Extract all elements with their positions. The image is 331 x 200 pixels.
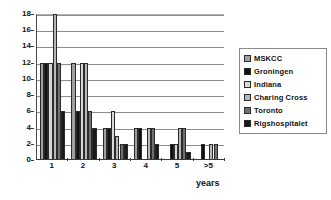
x-tick-label: 4 [143, 162, 147, 170]
bar-group [162, 15, 193, 160]
legend-swatch-icon [244, 55, 251, 62]
bar-group [194, 15, 225, 160]
bar-group [131, 15, 162, 160]
bar-chart-figure: 024681012141618 12345>5 years MSKCCGroni… [0, 0, 331, 200]
x-tickmark [161, 158, 162, 161]
y-tickmark [31, 14, 34, 15]
legend-label: Charing Cross [254, 93, 308, 102]
bar [155, 144, 159, 160]
y-tickmark [31, 46, 34, 47]
bar [214, 144, 218, 160]
x-tick-label: 3 [112, 162, 116, 170]
legend-label: Toronto [254, 106, 283, 115]
x-tick-label: 1 [49, 162, 53, 170]
bar-group [100, 15, 131, 160]
x-tickmark [193, 158, 194, 161]
plot-wrapper [36, 14, 224, 160]
x-tick-label: 2 [81, 162, 85, 170]
y-tickmark [31, 144, 34, 145]
x-tick-label: 5 [175, 162, 179, 170]
y-tick-label: 10 [22, 75, 31, 83]
y-tick-label: 12 [22, 59, 31, 67]
legend-item[interactable]: Toronto [244, 104, 323, 117]
legend-item[interactable]: Charing Cross [244, 91, 323, 104]
legend-label: Groningen [254, 67, 293, 76]
legend-item[interactable]: MSKCC [244, 52, 323, 65]
x-tickmark [130, 158, 131, 161]
y-tickmark [31, 160, 34, 161]
bar-group [68, 15, 99, 160]
y-tick-label: 14 [22, 42, 31, 50]
legend-swatch-icon [244, 94, 251, 101]
y-tick-label: 16 [22, 26, 31, 34]
x-tick-label: >5 [204, 162, 213, 170]
bar [201, 144, 205, 160]
x-tickmark [67, 158, 68, 161]
bar [92, 128, 96, 160]
legend-swatch-icon [244, 68, 251, 75]
y-axis: 024681012141618 [0, 14, 34, 160]
legend-label: MSKCC [254, 54, 282, 63]
x-axis: 12345>5 [36, 162, 224, 176]
legend-item[interactable]: Groningen [244, 65, 323, 78]
y-tickmark [31, 79, 34, 80]
bar [124, 144, 128, 160]
legend-label: Rigshospitalet [254, 119, 308, 128]
legend-swatch-icon [244, 120, 251, 127]
x-tickmark [224, 158, 225, 161]
plot-area [36, 14, 224, 160]
y-tickmark [31, 63, 34, 64]
chart-legend: MSKCCGroningenIndianaCharing CrossToront… [239, 48, 327, 134]
legend-label: Indiana [254, 80, 281, 89]
y-tickmark [31, 111, 34, 112]
x-axis-title: years [196, 178, 220, 188]
legend-swatch-icon [244, 107, 251, 114]
legend-item[interactable]: Rigshospitalet [244, 117, 323, 130]
bars-layer [37, 15, 224, 160]
legend-swatch-icon [244, 81, 251, 88]
y-tickmark [31, 95, 34, 96]
legend-item[interactable]: Indiana [244, 78, 323, 91]
y-tick-label: 18 [22, 10, 31, 18]
bar-group [37, 15, 68, 160]
y-tickmark [31, 128, 34, 129]
bar [61, 111, 65, 160]
x-tickmark [99, 158, 100, 161]
y-tickmark [31, 30, 34, 31]
bar [138, 128, 142, 160]
